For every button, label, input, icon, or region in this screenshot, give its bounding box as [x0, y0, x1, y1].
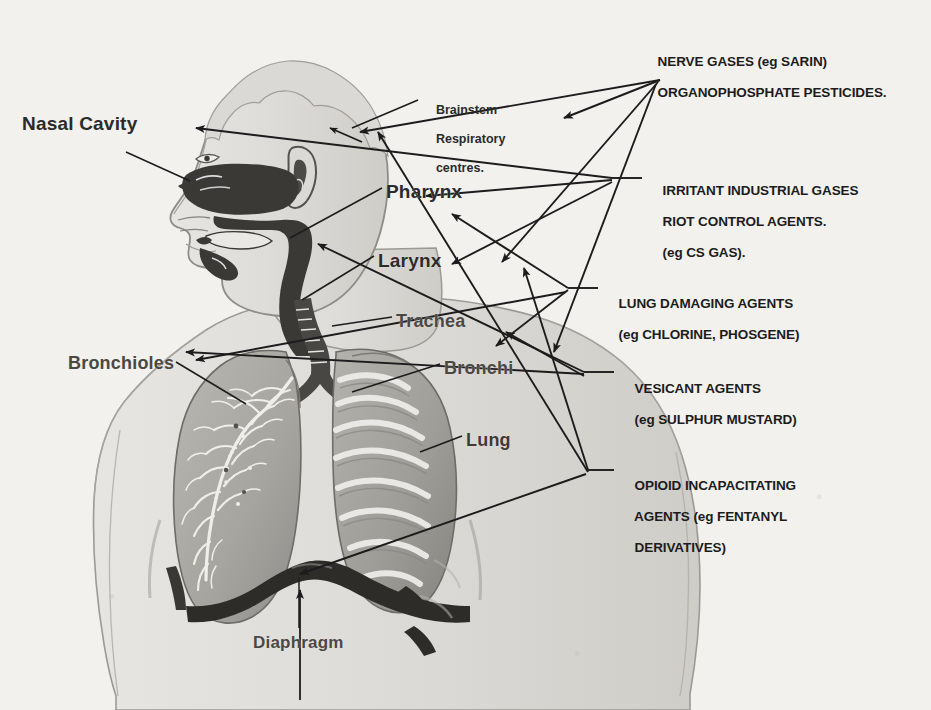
irritant-line-1: IRRITANT INDUSTRIAL GASES: [663, 183, 859, 198]
vesicant-line-1: VESICANT AGENTS: [635, 381, 761, 396]
label-opioid-incapacitating-agents: OPIOID INCAPACITATING AGENTS (eg FENTANY…: [620, 462, 796, 571]
leader-nasal-cavity: [126, 152, 190, 181]
label-lung: Lung: [466, 430, 511, 451]
label-bronchioles: Bronchioles: [68, 353, 174, 374]
label-diaphragm: Diaphragm: [253, 633, 344, 653]
irritant-line-3: (eg CS GAS).: [663, 245, 746, 260]
vesicant-line-2: (eg SULPHUR MUSTARD): [635, 412, 797, 427]
label-trachea: Trachea: [396, 311, 465, 332]
lung-damaging-line-1: LUNG DAMAGING AGENTS: [619, 296, 794, 311]
diagram-canvas: Nasal Cavity Pharynx Larynx Trachea Bron…: [0, 0, 931, 710]
label-bronchi: Bronchi: [444, 358, 513, 379]
label-larynx: Larynx: [378, 250, 442, 272]
nerve-gases-line-2: ORGANOPHOSPHATE PESTICIDES.: [658, 85, 887, 100]
arrow-lung-damaging-to-pharynx2: [452, 214, 568, 288]
arrow-irritant-to-larynx: [452, 182, 612, 264]
label-lung-damaging-agents: LUNG DAMAGING AGENTS (eg CHLORINE, PHOSG…: [604, 280, 799, 358]
lung-damaging-line-2: (eg CHLORINE, PHOSGENE): [619, 327, 800, 342]
opioid-line-1: OPIOID INCAPACITATING: [635, 478, 796, 493]
brainstem-line-1: Brainstem: [436, 103, 497, 117]
opioid-line-3: DERIVATIVES): [635, 540, 726, 555]
opioid-line-2: AGENTS (eg FENTANYL: [634, 509, 787, 524]
brainstem-line-3: centres.: [436, 161, 484, 175]
brainstem-line-2: Respiratory: [436, 132, 505, 146]
nerve-gases-line-1: NERVE GASES (eg SARIN): [658, 54, 827, 69]
label-nerve-gases: NERVE GASES (eg SARIN) ORGANOPHOSPHATE P…: [643, 38, 886, 116]
label-brainstem-respiratory-centres: Brainstem Respiratory centres.: [422, 88, 505, 190]
arrow-nerve-gases-to-bronchi-area: [502, 82, 658, 262]
label-nasal-cavity: Nasal Cavity: [22, 113, 137, 135]
label-irritant-industrial-gases: IRRITANT INDUSTRIAL GASES RIOT CONTROL A…: [648, 167, 858, 276]
label-vesicant-agents: VESICANT AGENTS (eg SULPHUR MUSTARD): [620, 365, 797, 443]
irritant-line-2: RIOT CONTROL AGENTS.: [663, 214, 827, 229]
